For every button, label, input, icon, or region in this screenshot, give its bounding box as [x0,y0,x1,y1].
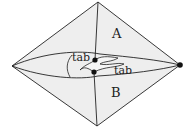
label-tab-right: tab [114,64,132,77]
label-region-a: A [111,26,122,41]
rhombus-diagram: A B tab tab [0,0,191,132]
dot-lower [91,69,96,74]
dot-right [177,62,183,68]
label-region-b: B [111,85,121,100]
label-tab-left: tab [72,51,90,64]
dot-upper [92,57,97,62]
